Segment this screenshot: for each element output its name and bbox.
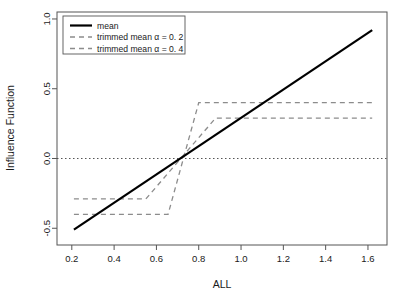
x-tick-label: 1.2 (277, 253, 290, 264)
y-tick-label: -0.5 (41, 220, 52, 236)
y-axis: -0.50.00.51.0 (41, 12, 57, 236)
chart-legend: mean trimmed mean α = 0. 2 trimmed mean … (63, 16, 185, 54)
x-tick-label: 0.6 (150, 253, 163, 264)
x-axis: 0.20.40.60.81.01.21.41.6 (65, 245, 374, 264)
x-tick-label: 1.6 (361, 253, 374, 264)
legend-label-mean: mean (97, 21, 119, 31)
legend-label-trimmed-mean-alpha-0-2: trimmed mean α = 0. 2 (97, 32, 184, 42)
y-tick-label: 1.0 (41, 12, 52, 25)
chart-container: 0.20.40.60.81.01.21.41.6 -0.50.00.51.0 A… (0, 0, 409, 301)
influence-function-chart: 0.20.40.60.81.01.21.41.6 -0.50.00.51.0 A… (0, 0, 409, 301)
legend-label-trimmed-mean-alpha-0-4: trimmed mean α = 0. 4 (97, 44, 184, 54)
x-tick-label: 0.2 (65, 253, 78, 264)
y-axis-title: Influence Function (4, 85, 16, 171)
x-tick-label: 0.8 (192, 253, 205, 264)
x-tick-label: 1.4 (319, 253, 332, 264)
y-tick-label: 0.5 (41, 82, 52, 95)
x-axis-title: ALL (213, 278, 232, 290)
x-tick-label: 0.4 (108, 253, 121, 264)
y-tick-label: 0.0 (41, 152, 52, 165)
x-tick-label: 1.0 (234, 253, 247, 264)
